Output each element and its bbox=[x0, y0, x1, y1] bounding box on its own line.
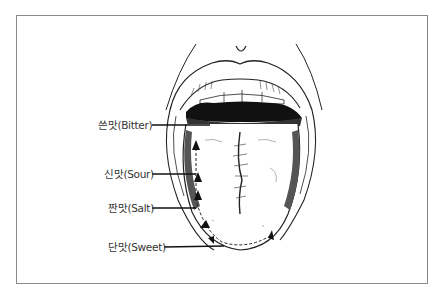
label-sweet: 단맛(Sweet) bbox=[108, 241, 166, 253]
label-salt: 짠맛(Salt) bbox=[108, 202, 154, 214]
label-sour: 신맛(Sour) bbox=[104, 168, 154, 180]
tongue-illustration bbox=[0, 0, 439, 299]
label-bitter: 쓴맛(Bitter) bbox=[98, 119, 152, 131]
